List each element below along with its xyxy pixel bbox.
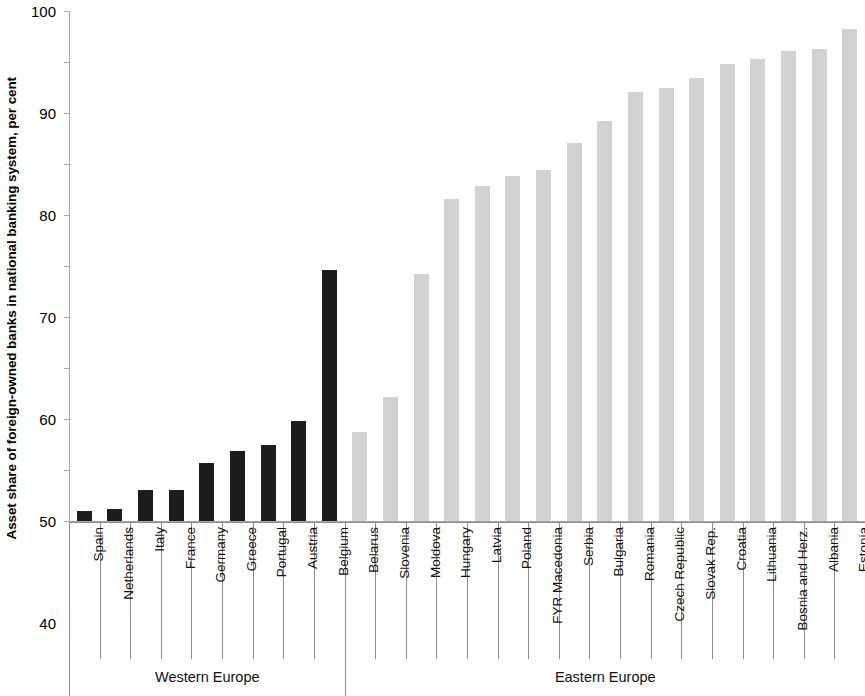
category-cell: Slovak Rep. [682,523,713,659]
bar [720,64,735,521]
y-tick-label: 60 [39,412,56,427]
plot-area: 1009080706050403020100 [69,11,865,522]
bar [261,445,276,521]
category-cell: Lithuania [744,523,775,659]
bar [597,121,612,521]
y-tick-label: 80 [39,208,56,223]
category-cell: Latvia [468,523,499,659]
category-cell: Greece [223,523,254,659]
bar [352,432,367,521]
y-tick-label: 90 [39,106,56,121]
category-cell: Germany [192,523,223,659]
y-tick-mark: 40 [64,317,69,318]
bar [475,186,490,521]
y-tick-mark: 80 [64,113,69,114]
y-tick-mark: 10 [64,470,69,471]
y-tick-mark: 100 [64,11,69,12]
y-tick-mark: 50 [64,266,69,267]
y-tick-mark: 90 [64,62,69,63]
y-tick-mark: 60 [64,215,69,216]
bar-chart: Asset share of foreign-owned banks in na… [0,0,865,696]
bar [689,78,704,521]
bar [414,274,429,521]
category-cell: Belgium [315,523,346,659]
group-cell: Eastern Europe [346,658,865,696]
category-cell: Belarus [346,523,377,659]
bar [781,51,796,521]
category-cell: Czech Republic [652,523,683,659]
category-cell: Moldova [407,523,438,659]
category-cell: Hungary [437,523,468,659]
bar [107,509,122,521]
category-cell: France [162,523,193,659]
bar [628,92,643,521]
category-label: Estonia [857,527,865,572]
category-cell: Portugal [254,523,285,659]
bar [199,463,214,521]
y-tick-label: 40 [39,616,56,631]
bar [444,199,459,521]
y-axis-title-text: Asset share of foreign-owned banks in na… [0,77,24,540]
category-axis: SpainNetherlandsItalyFranceGermanyGreece… [69,522,865,658]
y-tick-label: 100 [31,4,56,19]
y-tick-mark: 30 [64,368,69,369]
group-label: Western Europe [155,669,260,685]
y-axis-title: Asset share of foreign-owned banks in na… [0,0,24,540]
y-tick-mark: 20 [64,419,69,420]
bar [842,29,857,521]
category-cell: Austria [284,523,315,659]
category-cell: Albania [805,523,836,659]
category-cell: Croatia [713,523,744,659]
bar [812,49,827,521]
group-label: Eastern Europe [555,669,656,685]
bar [567,143,582,521]
y-axis-line [69,11,70,522]
category-cell: Romania [621,523,652,659]
bar [505,176,520,521]
group-cell: Western Europe [70,658,346,696]
category-cell: Bulgaria [590,523,621,659]
bar [322,270,337,521]
category-cell: Spain [70,523,101,659]
category-cell: Serbia [560,523,591,659]
y-tick-mark: 70 [64,164,69,165]
y-tick-label: 50 [39,514,56,529]
category-cell: FYR Macedonia [529,523,560,659]
category-cell: Estonia [835,523,865,659]
bar [138,490,153,521]
bar [383,397,398,521]
category-cell: Bosnia and Herz. [774,523,805,659]
category-cell: Poland [499,523,530,659]
y-tick-label: 70 [39,310,56,325]
category-cell: Italy [131,523,162,659]
category-cell: Netherlands [101,523,132,659]
bar [169,490,184,521]
bar [659,88,674,522]
bar [291,421,306,521]
bar [536,170,551,521]
bar [750,59,765,521]
category-cell: Slovenia [376,523,407,659]
group-axis: Western EuropeEastern Europe [69,658,865,696]
bar [77,511,92,521]
bar [230,451,245,521]
